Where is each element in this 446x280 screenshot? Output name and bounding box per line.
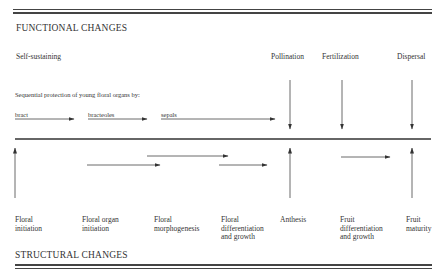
stage-floral-organ-initiation: Floral organ initiation: [82, 216, 119, 233]
stage-anthesis: Anthesis: [280, 216, 306, 225]
bottom-double-rule-upper: [15, 264, 432, 266]
stage-floral-differentiation: Floral differentiation and growth: [221, 216, 264, 242]
structural-changes-heading: STRUCTURAL CHANGES: [15, 250, 128, 260]
bottom-double-rule-lower: [15, 268, 432, 269]
stage-fruit-differentiation: Fruit differentiation and growth: [340, 216, 383, 242]
stage-floral-morphogenesis: Floral morphogenesis: [154, 216, 199, 233]
stage-floral-initiation: Floral initiation: [15, 216, 42, 233]
stage-fruit-maturity: Fruit maturity: [406, 216, 431, 233]
